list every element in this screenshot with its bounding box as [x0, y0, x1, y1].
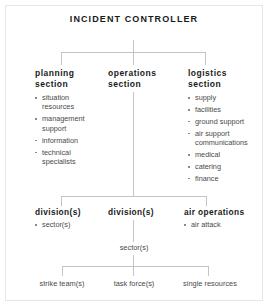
label-single-resources: single resources	[172, 279, 248, 288]
connector-drop-planning	[61, 52, 62, 65]
connector-title-drop	[133, 40, 134, 52]
node-division-center: division(s)	[108, 207, 174, 220]
connector-drop-logistics	[205, 52, 206, 65]
section-planning: planning section situation resources man…	[35, 68, 97, 169]
connector-drop-single-resources	[208, 266, 209, 276]
label-task-force: task force(s)	[99, 279, 169, 288]
section-logistics-heading-line2: section	[188, 79, 256, 90]
section-planning-heading-line2: section	[35, 79, 97, 90]
list-item: catering	[188, 162, 256, 171]
page-title: Incident Controller	[0, 14, 268, 26]
section-operations-heading-line2: section	[108, 79, 174, 90]
section-logistics-heading: logistics section	[188, 68, 256, 89]
section-planning-list: situation resources management support i…	[35, 93, 97, 166]
list-item: supply	[188, 93, 256, 102]
connector-drop-air-operations	[206, 196, 207, 206]
node-division-left-list: sector(s)	[35, 220, 101, 229]
section-operations-heading: operations section	[108, 68, 174, 89]
section-operations: operations section	[108, 68, 174, 93]
list-item: situation resources	[35, 93, 97, 112]
connector-bottom-bus	[62, 266, 208, 267]
node-division-left-heading: division(s)	[35, 207, 101, 217]
list-item: information	[35, 136, 97, 145]
section-planning-heading: planning section	[35, 68, 97, 89]
list-item: air attack	[184, 220, 258, 229]
connector-sector-to-bottom	[133, 255, 134, 266]
section-logistics-heading-line1: logistics	[188, 68, 256, 79]
node-division-center-heading: division(s)	[108, 207, 174, 217]
connector-drop-operations	[133, 52, 134, 65]
list-item: facilities	[188, 105, 256, 114]
connector-mid-bus	[61, 196, 207, 197]
list-item: medical	[188, 150, 256, 159]
org-chart: Incident Controller planning section sit…	[0, 0, 268, 306]
connector-drop-strike-team	[62, 266, 63, 276]
list-item: ground support	[188, 117, 256, 126]
connector-drop-division-left	[61, 196, 62, 206]
section-logistics: logistics section supply facilities grou…	[188, 68, 256, 186]
connector-operations-spine	[133, 92, 134, 196]
label-strike-team: strike team(s)	[25, 279, 99, 288]
node-air-operations-heading: air operations	[184, 207, 258, 217]
list-item: air support communications	[188, 129, 256, 148]
title-text: Incident Controller	[70, 14, 198, 24]
label-sector: sector(s)	[103, 243, 165, 252]
section-operations-heading-line1: operations	[108, 68, 174, 79]
list-item: sector(s)	[35, 220, 101, 229]
connector-division-to-sector	[133, 220, 134, 242]
list-item: management support	[35, 114, 97, 133]
section-planning-heading-line1: planning	[35, 68, 97, 79]
node-air-operations: air operations air attack	[184, 207, 258, 232]
node-division-left: division(s) sector(s)	[35, 207, 101, 232]
list-item: finance	[188, 174, 256, 183]
node-air-operations-list: air attack	[184, 220, 258, 229]
list-item: technical specialists	[35, 148, 97, 167]
section-logistics-list: supply facilities ground support air sup…	[188, 93, 256, 183]
connector-drop-task-force	[133, 266, 134, 276]
